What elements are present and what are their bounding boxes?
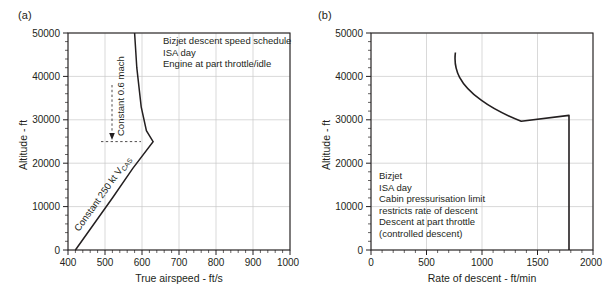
svg-text:40000: 40000 (32, 71, 60, 82)
svg-text:Bizjet: Bizjet (379, 170, 403, 181)
svg-text:ISA day: ISA day (379, 182, 412, 193)
panel-a-plot: 400 500 600 700 800 900 1000 0 10000 200… (0, 0, 308, 288)
svg-text:0: 0 (54, 245, 60, 256)
svg-text:20000: 20000 (32, 158, 60, 169)
svg-text:800: 800 (208, 257, 225, 268)
svg-text:900: 900 (245, 257, 262, 268)
svg-text:20000: 20000 (335, 158, 363, 169)
svg-text:50000: 50000 (335, 28, 363, 39)
svg-text:0: 0 (368, 257, 374, 268)
svg-text:50000: 50000 (32, 28, 60, 39)
svg-text:Bizjet descent speed schedule: Bizjet descent speed schedule (163, 35, 291, 46)
svg-text:30000: 30000 (32, 114, 60, 125)
panel-b-ytick-labels: 0 10000 20000 30000 40000 50000 (335, 28, 363, 256)
panel-b-plot: 0 500 1000 1500 2000 0 10000 20000 30000… (307, 0, 615, 288)
svg-text:30000: 30000 (335, 114, 363, 125)
panel-b-yaxis-title: Altitude - ft (320, 120, 332, 170)
panel-b-annotation: Bizjet ISA day Cabin pressurisation limi… (379, 170, 485, 239)
svg-text:40000: 40000 (335, 71, 363, 82)
svg-text:restricts rate of descent: restricts rate of descent (379, 205, 478, 216)
panel-a-yticks-major (63, 33, 68, 250)
panel-a-xaxis-title: True airspeed - ft/s (68, 272, 290, 284)
panel-a-yaxis-title: Altitude - ft (17, 120, 29, 170)
svg-text:10000: 10000 (32, 201, 60, 212)
svg-text:700: 700 (171, 257, 188, 268)
svg-text:Engine at part throttle/idle: Engine at part throttle/idle (163, 58, 271, 69)
svg-text:Constant 250 kt VCAS: Constant 250 kt VCAS (72, 154, 134, 234)
panel-a: (a) (0, 0, 308, 288)
svg-text:0: 0 (357, 245, 363, 256)
panel-b: (b) (307, 0, 615, 288)
panel-a-xticks-major (68, 250, 290, 255)
svg-text:2000: 2000 (580, 257, 603, 268)
svg-text:1500: 1500 (526, 257, 549, 268)
panel-b-yticks-major (366, 33, 371, 250)
svg-text:Cabin pressurisation limit: Cabin pressurisation limit (379, 193, 485, 204)
svg-text:500: 500 (418, 257, 435, 268)
figure-root: (a) (0, 0, 615, 288)
panel-b-xaxis-title: Rate of descent - ft/min (371, 272, 593, 284)
panel-a-label-mach: Constant 0.6 mach (115, 56, 126, 136)
panel-a-ytick-labels: 0 10000 20000 30000 40000 50000 (32, 28, 60, 256)
panel-a-label-cas: Constant 250 kt VCAS (72, 154, 134, 234)
svg-text:600: 600 (134, 257, 151, 268)
svg-text:1000: 1000 (471, 257, 494, 268)
svg-text:ISA day: ISA day (163, 47, 196, 58)
svg-text:1000: 1000 (277, 257, 300, 268)
svg-text:400: 400 (60, 257, 77, 268)
panel-a-annotation: Bizjet descent speed schedule ISA day En… (163, 35, 291, 69)
svg-text:500: 500 (97, 257, 114, 268)
svg-text:Descent at part throttle: Descent at part throttle (379, 216, 475, 227)
svg-text:(controlled descent): (controlled descent) (379, 228, 462, 239)
panel-a-xtick-labels: 400 500 600 700 800 900 1000 (60, 257, 300, 268)
svg-text:10000: 10000 (335, 201, 363, 212)
panel-b-xtick-labels: 0 500 1000 1500 2000 (368, 257, 602, 268)
